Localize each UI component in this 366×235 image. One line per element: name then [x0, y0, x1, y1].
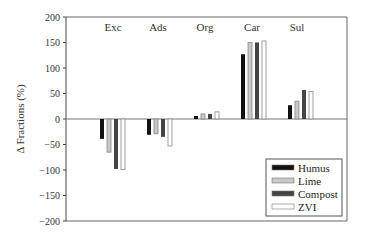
y-tick-label: −100: [39, 165, 60, 176]
bar-humus-org: [194, 116, 198, 119]
bar-zvi-org: [215, 112, 219, 119]
bar-lime-sul: [295, 101, 299, 119]
bar-lime-exc: [107, 119, 111, 152]
legend-swatch-zvi: [272, 204, 294, 209]
y-tick-label: −50: [44, 139, 60, 150]
bar-chart: 200150100500−50−100−150−200 ExcAdsOrgCar…: [0, 0, 366, 235]
legend-label: ZVI: [298, 201, 317, 213]
bar-humus-car: [241, 54, 245, 119]
category-label: Ads: [149, 21, 167, 33]
bar-lime-ads: [154, 119, 158, 134]
y-tick-label: 150: [45, 37, 60, 48]
bar-lime-org: [201, 114, 205, 119]
bar-zvi-ads: [168, 119, 172, 146]
legend-swatch-compost: [272, 191, 294, 196]
legend-label: Humus: [298, 162, 330, 174]
legend-label: Compost: [298, 188, 338, 200]
bar-compost-ads: [161, 119, 165, 137]
y-axis-title: Δ Fractions (%): [14, 84, 27, 154]
bar-humus-exc: [100, 119, 104, 139]
legend-swatch-humus: [272, 165, 294, 170]
bar-compost-org: [208, 114, 212, 119]
y-tick-label: −200: [39, 216, 60, 227]
category-label: Sul: [290, 21, 305, 33]
bar-humus-sul: [288, 105, 292, 119]
legend-swatch-lime: [272, 178, 294, 183]
bar-zvi-exc: [121, 119, 125, 169]
y-tick-label: 200: [45, 12, 60, 23]
bar-compost-exc: [114, 119, 118, 169]
bar-zvi-car: [262, 41, 266, 119]
y-tick-label: 50: [50, 88, 60, 99]
bar-compost-car: [255, 43, 259, 120]
bar-lime-car: [248, 43, 252, 120]
category-labels: ExcAdsOrgCarSul: [104, 21, 304, 33]
bar-humus-ads: [147, 119, 151, 135]
y-tick-label: 0: [55, 114, 60, 125]
legend: HumusLimeCompostZVI: [266, 159, 342, 216]
bar-zvi-sul: [309, 91, 313, 119]
category-label: Exc: [104, 21, 121, 33]
y-tick-label: 100: [45, 63, 60, 74]
y-tick-label: −150: [39, 190, 60, 201]
category-label: Car: [244, 21, 260, 33]
legend-label: Lime: [298, 175, 321, 187]
bar-compost-sul: [302, 90, 306, 119]
bars: [100, 41, 313, 170]
category-label: Org: [197, 21, 214, 33]
